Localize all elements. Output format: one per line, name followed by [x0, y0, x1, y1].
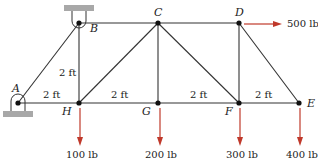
joint-a	[15, 100, 20, 105]
joint-g	[155, 100, 160, 105]
joint-label-c: C	[154, 6, 163, 19]
load-label-f: 300 lb	[226, 149, 258, 159]
joint-label-f: F	[224, 105, 233, 118]
dim-label-bh: 2 ft	[59, 67, 76, 78]
truss-diagram: A B C D H G F E 2 ft 2 ft 2 ft 2 ft 2 ft…	[0, 0, 318, 159]
joint-label-b: B	[89, 22, 98, 35]
joint-label-d: D	[234, 6, 244, 19]
force-arrows	[77, 21, 303, 146]
joint-b	[76, 20, 81, 25]
dim-label-fe: 2 ft	[255, 89, 272, 100]
joint-label-e: E	[306, 97, 315, 110]
joint-h	[76, 100, 81, 105]
load-label-g: 200 lb	[145, 149, 177, 159]
dim-label-gf: 2 ft	[190, 89, 207, 100]
joint-d	[236, 20, 241, 25]
joint-e	[296, 100, 301, 105]
joint-label-h: H	[61, 105, 72, 118]
load-label-h: 100 lb	[66, 149, 98, 159]
joint-label-a: A	[11, 82, 20, 95]
joint-label-g: G	[142, 105, 151, 118]
joint-c	[155, 20, 160, 25]
load-label-e: 400 lb	[286, 149, 318, 159]
dim-label-ah: 2 ft	[43, 89, 60, 100]
load-label-d: 500 lb	[287, 18, 318, 29]
joint-f	[236, 100, 241, 105]
dim-label-hg: 2 ft	[111, 89, 128, 100]
